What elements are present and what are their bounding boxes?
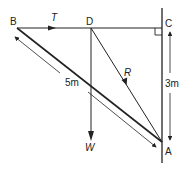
point-d-label: D (86, 16, 93, 27)
point-c-label: C (165, 18, 172, 29)
ladder-length-label: 5m (65, 77, 79, 88)
right-angle-marker (155, 28, 162, 35)
ladder-ba (17, 28, 162, 142)
point-a-label: A (165, 146, 172, 157)
weight-label: W (85, 142, 96, 153)
ladder-force-diagram: B T D C 5m R 3m W A (0, 0, 189, 173)
length-dimension-lower (88, 92, 156, 147)
weight-arrowhead (88, 131, 94, 141)
reaction-label: R (124, 67, 131, 78)
tension-label: T (51, 12, 58, 23)
point-b-label: B (10, 16, 17, 27)
tension-arrowhead (48, 26, 56, 31)
wall-height-label: 3m (165, 78, 179, 89)
length-dimension-upper (15, 37, 60, 73)
